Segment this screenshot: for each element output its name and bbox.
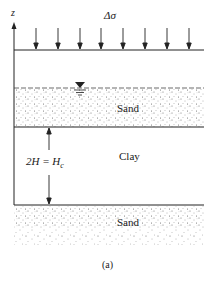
upper-sand-label: Sand (117, 102, 139, 114)
thickness-label: 2H = Hc (26, 155, 64, 170)
lower-sand-layer (14, 206, 204, 228)
z-axis-label: z (11, 7, 15, 18)
figure-caption: (a) (102, 259, 113, 270)
upper-sand-layer (14, 88, 204, 127)
soil-profile-diagram (0, 0, 212, 285)
load-label: Δσ (104, 9, 116, 21)
clay-label: Clay (119, 150, 140, 162)
lower-sand-label: Sand (117, 216, 139, 228)
load-arrows (34, 28, 191, 49)
